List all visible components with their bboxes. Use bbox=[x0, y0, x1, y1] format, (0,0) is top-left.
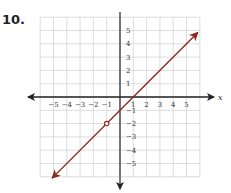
y-tick-label: −1 bbox=[126, 107, 136, 115]
x-tick-label: 3 bbox=[158, 101, 162, 109]
x-tick-label: 5 bbox=[184, 101, 188, 109]
x-tick-label: −5 bbox=[48, 101, 58, 109]
y-tick-label: −3 bbox=[126, 133, 136, 141]
coordinate-plane: x−5−4−3−2−11234554321−1−2−3−4−5 bbox=[0, 0, 231, 193]
open-circle-point bbox=[105, 121, 109, 125]
y-tick-label: 2 bbox=[126, 67, 130, 75]
y-tick-label: 3 bbox=[126, 54, 130, 62]
y-tick-label: 1 bbox=[126, 80, 130, 88]
x-tick-label: −3 bbox=[75, 101, 85, 109]
y-tick-label: 5 bbox=[126, 27, 130, 35]
x-tick-label: −4 bbox=[62, 101, 73, 109]
y-tick-label: −4 bbox=[126, 147, 137, 155]
x-tick-label: 4 bbox=[171, 101, 176, 109]
x-tick-label: 2 bbox=[144, 101, 148, 109]
y-tick-label: −5 bbox=[126, 160, 136, 168]
x-axis-label: x bbox=[218, 93, 223, 102]
x-tick-label: −1 bbox=[102, 101, 112, 109]
y-tick-label: 4 bbox=[126, 40, 131, 48]
line-y-equals-x-minus-1-lower bbox=[52, 105, 125, 178]
x-tick-label: −2 bbox=[88, 101, 98, 109]
y-tick-label: −2 bbox=[126, 120, 136, 128]
